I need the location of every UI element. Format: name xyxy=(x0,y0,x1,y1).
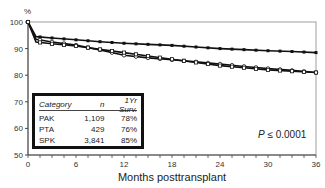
series-line-pta xyxy=(28,22,316,73)
legend-n: 1,109 xyxy=(72,114,105,123)
marker-filled-square xyxy=(171,44,174,47)
marker-filled-square xyxy=(147,43,150,46)
marker-filled-square xyxy=(87,39,90,42)
series-line-spk xyxy=(28,22,316,53)
marker-filled-square xyxy=(291,50,294,53)
legend-surv: 78% xyxy=(104,114,137,123)
y-axis-unit: % xyxy=(24,7,31,16)
legend-row-spk: SPK 3,841 85% xyxy=(39,135,137,146)
marker-open-square xyxy=(38,41,41,44)
marker-open-square xyxy=(146,54,149,57)
legend-col-n: n xyxy=(72,100,105,109)
x-tick-label: 24 xyxy=(216,160,225,169)
legend-surv: 76% xyxy=(104,125,137,134)
legend-n: 3,841 xyxy=(72,136,105,145)
marker-open-square xyxy=(98,48,101,51)
marker-open-square xyxy=(266,68,269,71)
y-tick-label: 60 xyxy=(14,124,23,133)
marker-open-square xyxy=(206,62,209,65)
marker-open-square xyxy=(50,42,53,45)
marker-open-square xyxy=(62,43,65,46)
marker-open-square xyxy=(134,53,137,56)
p-value-annotation: P ≤ 0.0001 xyxy=(258,129,306,140)
marker-filled-square xyxy=(51,36,54,39)
y-tick-label: 80 xyxy=(14,71,23,80)
marker-open-square xyxy=(314,71,317,74)
y-tick-label: 90 xyxy=(14,45,23,54)
y-tick-label: 100 xyxy=(10,18,24,27)
x-tick-label: 36 xyxy=(312,160,321,169)
marker-filled-square xyxy=(111,41,114,44)
marker-filled-square xyxy=(207,46,210,49)
marker-open-square xyxy=(254,67,257,70)
marker-filled-square xyxy=(135,42,138,45)
marker-open-square xyxy=(278,69,281,72)
marker-open-square xyxy=(158,56,161,59)
marker-filled-square xyxy=(63,37,66,40)
legend-header: Category n 1Yr Surv. xyxy=(39,99,137,111)
marker-open-square xyxy=(110,49,113,52)
x-tick-label: 18 xyxy=(168,160,177,169)
marker-open-square xyxy=(194,61,197,64)
series-lines xyxy=(26,20,318,74)
legend-col-surv: 1Yr Surv. xyxy=(104,96,137,114)
y-tick-label: 70 xyxy=(14,98,23,107)
x-tick-label: 6 xyxy=(74,160,79,169)
marker-filled-square xyxy=(123,42,126,45)
marker-filled-square xyxy=(195,46,198,49)
p-value: ≤ 0.0001 xyxy=(265,129,307,140)
marker-open-square xyxy=(170,58,173,61)
marker-open-square xyxy=(290,70,293,73)
legend-category: PAK xyxy=(39,114,72,123)
marker-open-square xyxy=(86,46,89,49)
marker-filled-square xyxy=(315,51,318,54)
x-axis-title: Months posttransplant xyxy=(118,171,226,183)
legend-surv: 85% xyxy=(104,136,137,145)
marker-filled-square xyxy=(219,47,222,50)
y-tick-label: 50 xyxy=(14,151,23,160)
marker-filled-square xyxy=(243,48,246,51)
marker-filled-square xyxy=(159,43,162,46)
legend-category: SPK xyxy=(39,136,72,145)
marker-filled-square xyxy=(303,51,306,54)
legend-n: 429 xyxy=(72,125,105,134)
legend-category: PTA xyxy=(39,125,72,134)
marker-open-square xyxy=(26,20,29,23)
marker-open-square xyxy=(74,44,77,47)
marker-open-square xyxy=(122,51,125,54)
x-tick-label: 0 xyxy=(26,160,31,169)
p-symbol: P xyxy=(258,129,265,140)
marker-open-square xyxy=(242,66,245,69)
marker-filled-square xyxy=(75,38,78,41)
legend-table: Category n 1Yr Surv. PAK 1,109 78% PTA 4… xyxy=(32,93,144,149)
marker-filled-square xyxy=(267,49,270,52)
legend-col-category: Category xyxy=(39,100,72,109)
marker-filled-square xyxy=(255,49,258,52)
marker-open-square xyxy=(218,64,221,67)
marker-filled-square xyxy=(99,40,102,43)
marker-open-square xyxy=(182,59,185,62)
marker-open-square xyxy=(302,70,305,73)
marker-open-square xyxy=(230,65,233,68)
legend-row-pak: PAK 1,109 78% xyxy=(39,113,137,124)
x-tick-label: 12 xyxy=(120,160,129,169)
x-tick-label: 30 xyxy=(264,160,273,169)
marker-filled-square xyxy=(231,48,234,51)
marker-filled-square xyxy=(183,45,186,48)
series-line-pak xyxy=(28,22,316,73)
marker-filled-square xyxy=(279,50,282,53)
legend-row-pta: PTA 429 76% xyxy=(39,124,137,135)
